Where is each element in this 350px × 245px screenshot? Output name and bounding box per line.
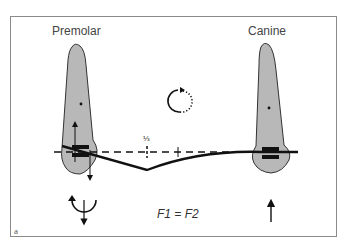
canine-center-dot — [268, 107, 271, 110]
canine-bracket-bottom — [262, 155, 279, 159]
one-third-label: ⅓ — [143, 134, 150, 143]
force-equation: F1 = F2 — [157, 207, 199, 221]
premolar-center-dot — [80, 103, 83, 106]
panel-letter: a — [14, 226, 18, 236]
premolar-tooth — [62, 44, 98, 178]
canine-tooth — [252, 43, 289, 173]
moment-arrow-icon — [68, 195, 96, 222]
canine-bracket-top — [262, 147, 279, 151]
rotation-indicator-icon — [168, 87, 192, 112]
